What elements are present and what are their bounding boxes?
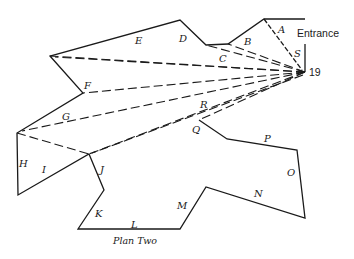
entrance-label: Entrance (297, 27, 339, 39)
label-c: C (219, 53, 227, 64)
sightline-to-f (83, 72, 305, 93)
sightline-to-e2 (55, 57, 305, 72)
label-f: F (83, 80, 92, 91)
label-p: P (263, 133, 271, 144)
sightline-to-q (199, 72, 305, 120)
plan-caption: Plan Two (112, 235, 157, 246)
label-s: S (294, 48, 301, 59)
viewpoint-label: 19 (309, 66, 321, 78)
label-r: R (199, 99, 208, 110)
label-b: B (243, 36, 251, 47)
label-n: N (253, 188, 264, 199)
label-q: Q (192, 124, 200, 135)
label-d: D (178, 33, 187, 44)
label-o: O (287, 167, 295, 178)
sightline-h-to-j (17, 133, 89, 154)
label-a: A (277, 24, 285, 35)
floor-plan-diagram: A B C D E F G H I J K L M N O P Q R S En… (0, 0, 354, 259)
label-e: E (134, 35, 143, 46)
label-i: I (41, 164, 47, 175)
sightline-to-g (22, 72, 305, 131)
label-m: M (176, 200, 188, 211)
label-h: H (18, 158, 28, 169)
label-l: L (130, 219, 138, 230)
label-j: J (98, 164, 105, 175)
sightline-to-j1 (89, 72, 305, 154)
label-k: K (94, 208, 103, 219)
label-g: G (62, 111, 70, 122)
sightline-to-j2 (92, 75, 303, 153)
